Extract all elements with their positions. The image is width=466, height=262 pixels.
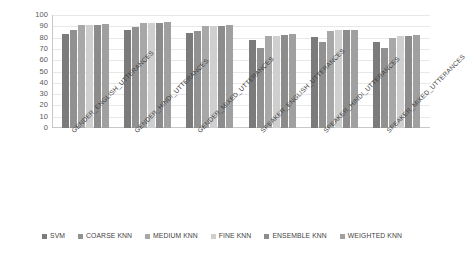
bar-group xyxy=(179,15,241,128)
legend-item: MEDIUM KNN xyxy=(145,232,198,240)
legend-swatch-icon xyxy=(78,234,83,239)
bar xyxy=(78,25,85,128)
legend-item: WEIGHTED KNN xyxy=(340,232,402,240)
legend-label: SVM xyxy=(50,232,65,240)
y-tick-label: 50 xyxy=(4,68,48,76)
legend-swatch-icon xyxy=(42,234,47,239)
legend-item: SVM xyxy=(42,232,65,240)
y-tick-label: 80 xyxy=(4,34,48,42)
bar-group xyxy=(303,15,365,128)
bar xyxy=(389,38,396,128)
legend-swatch-icon xyxy=(340,234,345,239)
y-tick-label: 10 xyxy=(4,113,48,121)
y-tick-label: 20 xyxy=(4,101,48,109)
bar xyxy=(140,23,147,128)
bar xyxy=(351,30,358,128)
y-axis-labels: 1009080706050403020100 xyxy=(0,15,48,128)
y-tick-label: 70 xyxy=(4,45,48,53)
bar xyxy=(62,34,69,128)
legend-swatch-icon xyxy=(145,234,150,239)
bar xyxy=(226,25,233,128)
legend-item: ENSEMBLE KNN xyxy=(264,232,326,240)
legend-label: WEIGHTED KNN xyxy=(348,232,402,240)
bar-group xyxy=(366,15,428,128)
y-tick-label: 100 xyxy=(4,11,48,19)
bar xyxy=(164,22,171,128)
legend-label: FINE KNN xyxy=(219,232,252,240)
bar xyxy=(102,24,109,128)
bar xyxy=(202,26,209,128)
y-tick-label: 30 xyxy=(4,90,48,98)
bar xyxy=(132,27,139,128)
bar-group xyxy=(241,15,303,128)
bar xyxy=(319,42,326,128)
bar xyxy=(381,48,388,128)
y-tick-label: 0 xyxy=(4,124,48,132)
legend-label: COARSE KNN xyxy=(86,232,132,240)
legend-label: MEDIUM KNN xyxy=(153,232,198,240)
legend-item: COARSE KNN xyxy=(78,232,132,240)
legend-swatch-icon xyxy=(264,234,269,239)
plot-wrapper: 1009080706050403020100 xyxy=(0,0,444,140)
legend-swatch-icon xyxy=(211,234,216,239)
x-axis-category-labels: GENDER_ENGLISH_UTTERANCESGENDER_HINDI_UT… xyxy=(52,129,430,219)
y-tick-label: 90 xyxy=(4,22,48,30)
bar xyxy=(257,48,264,128)
legend-item: FINE KNN xyxy=(211,232,252,240)
bar-group xyxy=(54,15,116,128)
chart-legend: SVMCOARSE KNNMEDIUM KNNFINE KNNENSEMBLE … xyxy=(0,232,444,240)
y-tick-label: 40 xyxy=(4,79,48,87)
bar xyxy=(289,34,296,128)
bar xyxy=(327,31,334,128)
bar xyxy=(265,36,272,128)
y-tick-label: 60 xyxy=(4,56,48,64)
bar xyxy=(413,35,420,128)
bar xyxy=(70,30,77,128)
legend-label: ENSEMBLE KNN xyxy=(272,232,326,240)
bar xyxy=(194,31,201,128)
bar-groups xyxy=(52,15,430,128)
